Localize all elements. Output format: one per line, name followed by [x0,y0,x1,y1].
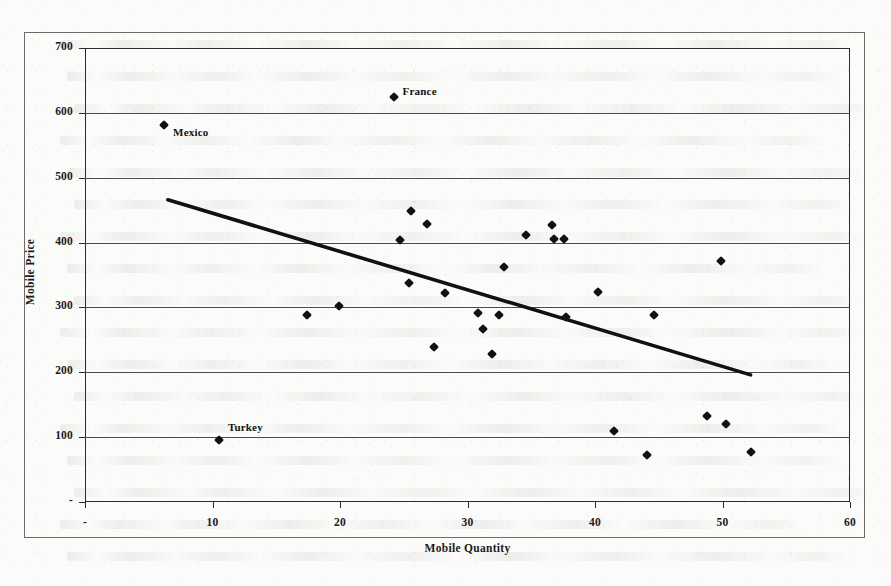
scatter-plot-page: -100200300400500600700 -102030405060 Fra… [0,0,891,586]
point-label-turkey: Turkey [228,421,263,433]
y-axis-title: Mobile Price [24,212,36,332]
point-label-france: France [403,85,437,97]
chart-canvas: -100200300400500600700 -102030405060 Fra… [0,0,891,586]
point-label-mexico: Mexico [173,126,208,138]
x-axis-title: Mobile Quantity [388,542,548,554]
